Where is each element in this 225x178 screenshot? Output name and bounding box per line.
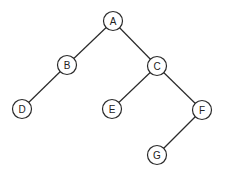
node-f: F (193, 101, 212, 120)
node-b-label: B (64, 60, 71, 71)
node-d-label: D (18, 104, 25, 115)
node-d: D (13, 100, 32, 119)
node-e: E (103, 100, 122, 119)
node-a: A (104, 12, 123, 31)
node-f-label: F (199, 105, 205, 116)
edges (22, 21, 202, 155)
node-g: G (148, 146, 167, 165)
node-b: B (58, 56, 77, 75)
node-a-label: A (110, 16, 117, 27)
node-c: C (148, 57, 167, 76)
node-e-label: E (109, 104, 116, 115)
node-c-label: C (153, 61, 160, 72)
node-g-label: G (153, 150, 161, 161)
tree-diagram: A B C D E F G (0, 0, 225, 178)
